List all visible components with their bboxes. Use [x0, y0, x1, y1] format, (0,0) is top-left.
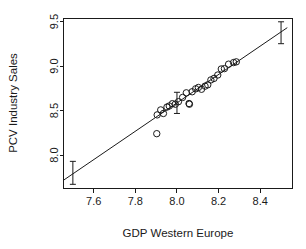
x-tick-label: 7.8 [128, 195, 143, 207]
scatter-plot: 8.08.59.09.5 7.67.88.08.28.4 GDP Western… [0, 0, 306, 249]
y-tick-label: 9.5 [48, 14, 60, 29]
error-bars [70, 22, 284, 185]
data-point-marker [154, 130, 160, 136]
x-tick-label: 8.4 [253, 195, 268, 207]
x-axis-label: GDP Western Europe [123, 227, 234, 239]
y-tick-label: 8.0 [48, 147, 60, 162]
y-axis-ticks: 8.08.59.09.5 [48, 14, 63, 163]
x-tick-label: 7.6 [86, 195, 101, 207]
x-tick-label: 8.2 [211, 195, 226, 207]
y-tick-label: 9.0 [48, 58, 60, 73]
x-tick-label: 8.0 [169, 195, 184, 207]
y-axis-label: PCV Industry Sales [7, 53, 19, 153]
data-points [154, 59, 240, 137]
x-axis-ticks: 7.67.88.08.28.4 [86, 189, 268, 207]
y-tick-label: 8.5 [48, 103, 60, 118]
data-point-marker [183, 90, 189, 96]
chart-figure: 8.08.59.09.5 7.67.88.08.28.4 GDP Western… [0, 0, 306, 249]
